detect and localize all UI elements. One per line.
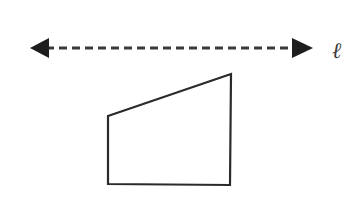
quadrilateral-shape — [108, 74, 231, 185]
line-label: ℓ — [332, 38, 342, 63]
line-l — [30, 38, 313, 58]
right-arrowhead-icon — [292, 38, 313, 58]
left-arrowhead-icon — [30, 38, 49, 58]
diagram-canvas: ℓ — [0, 0, 364, 203]
